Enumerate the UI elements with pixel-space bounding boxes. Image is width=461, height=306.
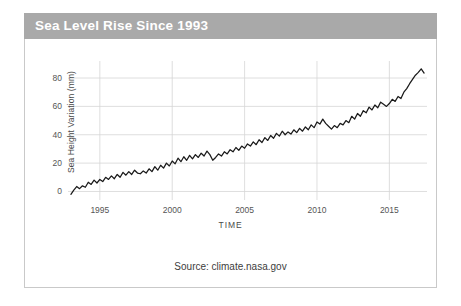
x-tick-label: 2005 [235, 205, 254, 215]
y-tick-label: 80 [53, 73, 63, 83]
chart-title: Sea Level Rise Since 1993 [35, 19, 208, 33]
figure-container: Sea Level Rise Since 1993 020406080 1995… [0, 0, 461, 306]
y-axis-label: Sea Height Variation (mm) [66, 47, 76, 197]
y-tick-label: 40 [53, 130, 63, 140]
chart-title-bar: Sea Level Rise Since 1993 [24, 13, 437, 39]
y-tick-label: 0 [57, 186, 62, 196]
x-tick-label: 1995 [90, 205, 109, 215]
y-tick-label: 60 [53, 101, 63, 111]
x-tick-label: 2010 [308, 205, 327, 215]
y-axis-tick-labels: 020406080 [53, 73, 63, 196]
x-axis-tick-labels: 19952000200520102015 [90, 205, 399, 215]
plot-wrapper: 020406080 19952000200520102015 Sea Heigh… [24, 39, 437, 288]
gridlines-group [68, 61, 427, 200]
y-tick-label: 20 [53, 158, 63, 168]
x-tick-label: 2000 [163, 205, 182, 215]
sea-level-data-line [71, 69, 424, 195]
x-tick-label: 2015 [380, 205, 399, 215]
line-chart: 020406080 19952000200520102015 [24, 39, 437, 288]
x-axis-label: TIME [24, 220, 437, 230]
source-caption: Source: climate.nasa.gov [24, 261, 437, 272]
